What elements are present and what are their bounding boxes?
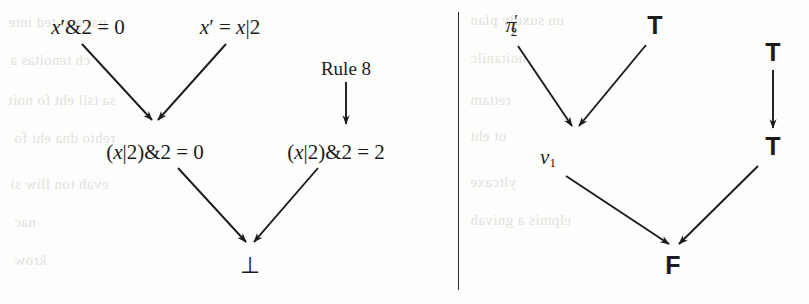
edge-n3-to-n5 bbox=[178, 168, 246, 242]
node-v1: v1 bbox=[540, 147, 556, 170]
edge-n2-to-n3 bbox=[158, 44, 226, 120]
bleed-through-line: yltcaxe bbox=[470, 174, 516, 191]
rule-8-label: Rule 8 bbox=[321, 59, 371, 78]
node-x-or-2-and-2-eq-2: (x|2)&2 = 2 bbox=[287, 142, 385, 163]
node-pi-2-prime: π′2 bbox=[506, 15, 527, 38]
bleed-through-line: nac bbox=[14, 214, 36, 231]
bleed-through-line: noitanilc bbox=[470, 50, 526, 67]
bleed-through-line: rehto dna eht fo bbox=[14, 130, 115, 147]
edge-r1-to-r3 bbox=[518, 46, 572, 126]
bleed-through-line: sa tsil eht fo noit bbox=[8, 92, 116, 109]
node-x-prime-and-2-eq-0: x′&2 = 0 bbox=[51, 17, 125, 38]
edge-r2-to-r3 bbox=[579, 45, 646, 126]
bleed-through-line: evah ton lliw si bbox=[10, 176, 108, 193]
bleed-through-line: ch tenoitas a bbox=[10, 52, 90, 69]
bleed-through-line: rettam bbox=[470, 92, 511, 109]
vertical-rule-divider bbox=[458, 12, 459, 290]
edge-r3-to-r6 bbox=[566, 176, 669, 244]
node-x-or-2-and-2-eq-0: (x|2)&2 = 0 bbox=[106, 142, 204, 163]
bleed-through-line: ot eht bbox=[470, 128, 506, 145]
edge-r5-to-r6 bbox=[679, 166, 758, 244]
node-x-prime-eq-x-or-2: x′ = x|2 bbox=[200, 17, 260, 38]
node-true-top-right: T bbox=[647, 13, 662, 38]
node-true-far-right-upper: T bbox=[765, 40, 780, 65]
node-bottom-falsum: ⊥ bbox=[240, 254, 260, 277]
node-false-bottom-right: F bbox=[665, 253, 680, 278]
edge-n4-to-n5 bbox=[254, 168, 318, 242]
bleed-through-line: elpmis a gnivah bbox=[470, 212, 571, 229]
bleed-through-line: krow bbox=[14, 252, 46, 269]
figure-canvas: pat and ted inteun suxuly planch tenoita… bbox=[0, 0, 809, 304]
node-true-far-right-lower: T bbox=[765, 134, 780, 159]
